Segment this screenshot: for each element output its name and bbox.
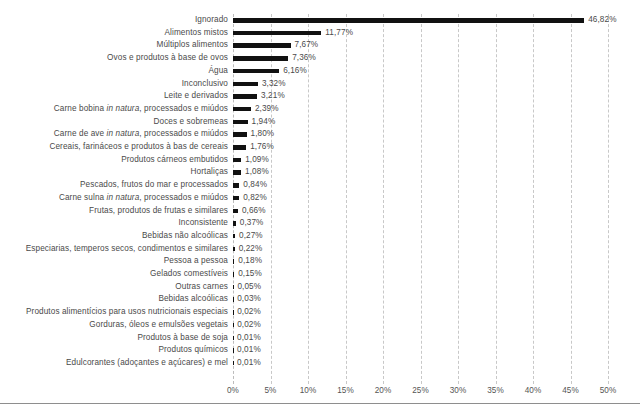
bar-row: Produtos químicos0,01% [0, 344, 640, 357]
bar-value-label: 7,67% [295, 39, 319, 52]
bar[interactable] [233, 132, 247, 137]
category-label: Pescados, frutos do mar e processados [0, 179, 228, 192]
bar-track: 1,94% [233, 116, 608, 129]
bar-row: Carne sulna in natura, processados e miú… [0, 192, 640, 205]
bar-row: Pescados, frutos do mar e processados0,8… [0, 179, 640, 192]
category-label: Especiarias, temperos secos, condimentos… [0, 243, 228, 256]
bar-row: Produtos alimentícios para usos nutricio… [0, 306, 640, 319]
x-tick-label: 0% [213, 384, 253, 398]
bar[interactable] [233, 310, 234, 315]
bar-row: Doces e sobremeas1,94% [0, 116, 640, 129]
bar-row: Bebidas alcoólicas0,03% [0, 293, 640, 306]
bar[interactable] [233, 209, 238, 214]
bar-value-label: 1,76% [250, 141, 274, 154]
bar-track: 0,27% [233, 230, 608, 243]
bar-value-label: 7,36% [292, 52, 316, 65]
bar-track: 6,16% [233, 65, 608, 78]
bar-track: 0,66% [233, 205, 608, 218]
bar[interactable] [233, 56, 288, 61]
bar[interactable] [233, 259, 234, 264]
bar-track: 3,32% [233, 78, 608, 91]
bar[interactable] [233, 272, 234, 277]
bar-row: Alimentos mistos11,77% [0, 27, 640, 40]
bar[interactable] [233, 120, 248, 125]
category-label: Bebidas não alcoólicas [0, 230, 228, 243]
category-label: Produtos cárneos embutidos [0, 154, 228, 167]
bar-row: Água6,16% [0, 65, 640, 78]
bar-row: Inconclusivo3,32% [0, 78, 640, 91]
bar-track: 0,05% [233, 281, 608, 294]
bar-value-label: 0,05% [237, 281, 261, 294]
bar-value-label: 2,39% [255, 103, 279, 116]
category-label: Múltiplos alimentos [0, 39, 228, 52]
bar[interactable] [233, 18, 584, 23]
bar[interactable] [233, 94, 257, 99]
bar-track: 0,82% [233, 192, 608, 205]
bar-row: Gorduras, óleos e emulsões vegetais0,02% [0, 319, 640, 332]
bar-track: 2,39% [233, 103, 608, 116]
bar-track: 0,18% [233, 255, 608, 268]
bar-track: 0,84% [233, 179, 608, 192]
bar-track: 0,22% [233, 243, 608, 256]
bar[interactable] [233, 285, 234, 290]
bar-value-label: 0,82% [243, 192, 267, 205]
bar-track: 1,08% [233, 166, 608, 179]
bar-value-label: 1,09% [245, 154, 269, 167]
bar-row: Bebidas não alcoólicas0,27% [0, 230, 640, 243]
x-tick-label: 15% [326, 384, 366, 398]
bar[interactable] [233, 247, 235, 252]
category-label: Bebidas alcoólicas [0, 293, 228, 306]
bar-track: 1,09% [233, 154, 608, 167]
bar-track: 0,01% [233, 344, 608, 357]
bar[interactable] [233, 323, 234, 328]
bar[interactable] [233, 145, 246, 150]
bar-track: 7,67% [233, 39, 608, 52]
bar-row: Múltiplos alimentos7,67% [0, 39, 640, 52]
bar[interactable] [233, 170, 241, 175]
bar[interactable] [233, 297, 234, 302]
bar[interactable] [233, 234, 235, 239]
bar-track: 0,02% [233, 306, 608, 319]
bar-row: Gelados comestíveis0,15% [0, 268, 640, 281]
bar-value-label: 0,27% [239, 230, 263, 243]
bar[interactable] [233, 158, 241, 163]
bar-value-label: 1,80% [251, 128, 275, 141]
bar[interactable] [233, 107, 251, 112]
bar[interactable] [233, 336, 234, 341]
bar[interactable] [233, 69, 279, 74]
category-label: Doces e sobremeas [0, 116, 228, 129]
bar-value-label: 0,01% [237, 344, 261, 357]
bar[interactable] [233, 183, 239, 188]
bar-value-label: 0,22% [239, 243, 263, 256]
bar[interactable] [233, 82, 258, 87]
bar-row: Ovos e produtos à base de ovos7,36% [0, 52, 640, 65]
category-label: Gelados comestíveis [0, 268, 228, 281]
category-label: Carne sulna in natura, processados e miú… [0, 192, 228, 205]
bar-value-label: 0,01% [237, 332, 261, 345]
category-label: Edulcorantes (adoçantes e açúcares) e me… [0, 357, 228, 370]
bar[interactable] [233, 348, 234, 353]
bar-value-label: 11,77% [325, 27, 353, 40]
bar-track: 1,80% [233, 128, 608, 141]
category-label: Inconclusivo [0, 78, 228, 91]
bar-track: 0,03% [233, 293, 608, 306]
x-tick-label: 20% [363, 384, 403, 398]
horizontal-bar-chart: Ignorado46,82%Alimentos mistos11,77%Múlt… [0, 0, 640, 415]
bar-track: 3,21% [233, 90, 608, 103]
category-label: Ignorado [0, 14, 228, 27]
category-label: Gorduras, óleos e emulsões vegetais [0, 319, 228, 332]
bar-track: 0,01% [233, 357, 608, 370]
bar[interactable] [233, 221, 236, 226]
x-tick-label: 5% [251, 384, 291, 398]
bar-row: Especiarias, temperos secos, condimentos… [0, 243, 640, 256]
bar[interactable] [233, 31, 321, 36]
bar-track: 11,77% [233, 27, 608, 40]
bar[interactable] [233, 43, 291, 48]
x-tick-label: 50% [588, 384, 628, 398]
bar-value-label: 0,02% [237, 319, 261, 332]
bar[interactable] [233, 196, 239, 201]
bar-row: Produtos à base de soja0,01% [0, 332, 640, 345]
bar-track: 46,82% [233, 14, 608, 27]
x-tick-label: 35% [476, 384, 516, 398]
bar[interactable] [233, 361, 234, 366]
